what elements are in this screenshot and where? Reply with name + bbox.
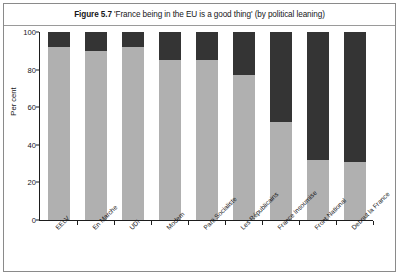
bar-segment-disagree: [122, 32, 144, 47]
bar-segment-disagree: [270, 32, 292, 122]
y-tick-mark: [36, 144, 39, 145]
x-tick-mark: [114, 221, 115, 225]
x-tick-mark: [373, 221, 374, 225]
bar-en-marche: [85, 32, 107, 220]
y-tick-mark: [36, 107, 39, 108]
plot-area: Per cent 020406080100 EELVEn MarcheUDIMo…: [0, 0, 400, 276]
y-tick-mark: [36, 220, 39, 221]
bar-segment-disagree: [196, 32, 218, 60]
bar-debout-la-france: [344, 32, 366, 220]
bar-segment-agree: [85, 51, 107, 220]
bar-segment-agree: [48, 47, 70, 220]
y-tick-mark: [36, 32, 39, 33]
x-tick-mark: [188, 221, 189, 225]
bar-modem: [159, 32, 181, 220]
y-tick-label: 20: [6, 178, 36, 187]
y-tick-label: 0: [6, 216, 36, 225]
y-axis-line: [39, 32, 40, 221]
x-tick-mark: [336, 221, 337, 225]
bar-segment-agree: [159, 60, 181, 220]
bar-eelv: [48, 32, 70, 220]
bar-segment-agree: [344, 162, 366, 220]
x-tick-mark: [262, 221, 263, 225]
bar-les-r-publicains: [233, 32, 255, 220]
figure-container: Figure 5.7 'France being in the EU is a …: [0, 0, 400, 276]
x-tick-mark: [151, 221, 152, 225]
bar-segment-disagree: [233, 32, 255, 75]
y-tick-mark: [36, 182, 39, 183]
y-tick-mark: [36, 69, 39, 70]
y-tick-label: 60: [6, 103, 36, 112]
y-tick-label: 80: [6, 65, 36, 74]
y-tick-label: 100: [6, 28, 36, 37]
x-tick-mark: [77, 221, 78, 225]
bar-segment-disagree: [307, 32, 329, 160]
x-tick-mark: [225, 221, 226, 225]
bar-segment-disagree: [48, 32, 70, 47]
y-tick-label: 40: [6, 140, 36, 149]
bar-segment-agree: [307, 160, 329, 220]
bar-segment-disagree: [85, 32, 107, 51]
bar-segment-disagree: [344, 32, 366, 162]
bar-udi: [122, 32, 144, 220]
y-axis-title: Per cent: [9, 72, 18, 132]
bar-segment-agree: [270, 122, 292, 220]
bar-parti-socialiste: [196, 32, 218, 220]
bar-segment-agree: [122, 47, 144, 220]
bar-segment-agree: [196, 60, 218, 220]
bar-segment-disagree: [159, 32, 181, 60]
x-tick-mark: [299, 221, 300, 225]
